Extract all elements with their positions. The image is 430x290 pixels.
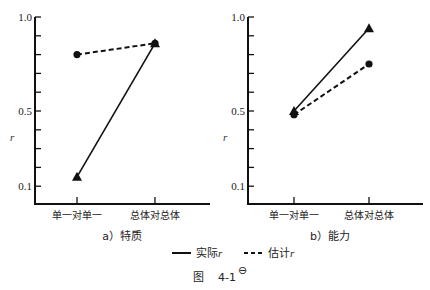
y-tick-label: 0.1: [231, 180, 245, 192]
panel-title: a）特质: [102, 229, 142, 243]
figure-4-1: 1.00.50.1r单一对单一总体对总体a）特质1.00.50.1r单一对单一总…: [0, 0, 430, 290]
legend-label-actual: 实际r: [196, 246, 223, 260]
x-category-label: 总体对总体: [344, 209, 394, 221]
y-tick-label: 0.5: [231, 105, 245, 117]
estimated-r-line: [294, 64, 369, 115]
chart-panel-a: 1.00.50.1r单一对单一总体对总体a）特质: [10, 11, 210, 243]
estimated-r-line: [77, 43, 155, 54]
circle-marker: [73, 51, 80, 58]
triangle-marker: [364, 23, 374, 32]
actual-r-line: [77, 43, 155, 176]
actual-r-line: [294, 28, 369, 111]
y-tick-label: 1.0: [18, 11, 32, 23]
y-tick-label: 0.1: [18, 180, 32, 192]
figure-caption-number: 4-1: [218, 271, 236, 284]
figure-caption-prefix: 图: [193, 271, 204, 284]
panel-title: b）能力: [310, 229, 350, 243]
legend-label-estimated: 估计r: [268, 247, 295, 260]
x-category-label: 单一对单一: [269, 209, 319, 221]
triangle-marker: [72, 172, 82, 181]
y-axis-label: r: [223, 131, 228, 143]
figure-caption: 图4-1⊖: [193, 264, 247, 284]
circle-marker: [290, 111, 297, 118]
y-tick-label: 1.0: [231, 11, 245, 23]
x-category-label: 总体对总体: [130, 209, 180, 221]
legend: 实际r估计r: [172, 246, 295, 260]
circle-marker: [151, 40, 158, 47]
x-category-label: 单一对单一: [52, 209, 102, 221]
y-axis-label: r: [10, 131, 15, 143]
y-tick-label: 0.5: [18, 105, 32, 117]
circle-marker: [365, 60, 372, 67]
footnote-marker: ⊖: [238, 264, 247, 277]
chart-panel-b: 1.00.50.1r单一对单一总体对总体b）能力: [223, 11, 423, 243]
